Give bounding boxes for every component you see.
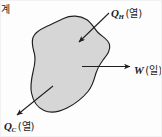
system-boundary-blob [31, 16, 110, 112]
thermodynamics-figure: QH(열) W(일) QC(열) 계 [0, 0, 162, 137]
heat-in-label: QH(열) [111, 4, 142, 21]
heat-in-unit-note: (열) [125, 8, 142, 19]
work-out-unit-note: (일) [145, 65, 162, 76]
work-out-label: W(일) [134, 61, 162, 77]
heat-in-subscript: H [118, 13, 123, 21]
work-out-symbol: W [134, 64, 144, 76]
heat-out-label: QC(열) [4, 117, 34, 134]
heat-out-subscript: C [11, 126, 16, 134]
heat-out-unit-note: (열) [18, 121, 35, 132]
